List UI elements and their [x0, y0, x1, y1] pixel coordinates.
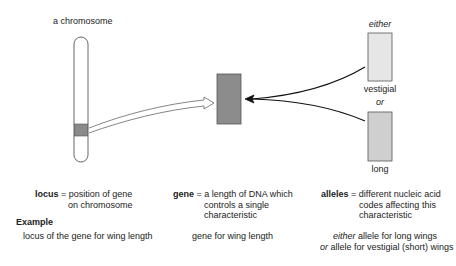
either-word: either	[333, 231, 356, 241]
allele-vestigial-box	[368, 33, 392, 81]
locus-def-line1: position of gene	[69, 189, 133, 199]
chromosome-locus-band	[74, 124, 87, 136]
alleles-def-line2: codes affecting this	[321, 200, 441, 211]
example-alleles-line1: either allele for long wings	[333, 231, 437, 242]
equals-sign: =	[59, 189, 69, 199]
equals-sign: =	[194, 189, 204, 199]
example-heading: Example	[16, 217, 53, 228]
gene-def-line2: controls a single	[173, 200, 293, 211]
locus-term: locus	[35, 189, 59, 199]
allele-vestigial-text: allele for vestigial (short) wings	[328, 242, 454, 252]
example-alleles-line2: or allele for vestigial (short) wings	[320, 242, 454, 253]
allele-long-text: allele for long wings	[356, 231, 438, 241]
hollow-arrow-icon	[89, 97, 214, 133]
gene-block	[217, 74, 241, 124]
alleles-def-line1: different nucleic acid	[359, 189, 441, 199]
chromosome-label: a chromosome	[53, 16, 113, 27]
example-locus: locus of the gene for wing length	[23, 231, 153, 242]
gene-definition: gene = a length of DNA which controls a …	[173, 189, 293, 221]
gene-def-line1: a length of DNA which	[204, 189, 293, 199]
alleles-definition: alleles = different nucleic acid codes a…	[321, 189, 441, 221]
or-label: or	[362, 97, 398, 108]
example-gene: gene for wing length	[192, 231, 273, 242]
alleles-term: alleles	[321, 189, 349, 199]
long-label: long	[362, 164, 398, 175]
gene-def-line3: characteristic	[173, 210, 293, 221]
alleles-def-line3: characteristic	[321, 210, 441, 221]
equals-sign: =	[349, 189, 359, 199]
chromosome	[74, 37, 88, 162]
or-word: or	[320, 242, 328, 252]
vestigial-label: vestigial	[358, 84, 402, 95]
diagram-canvas	[0, 0, 456, 266]
allele-long-box	[368, 112, 392, 161]
allele-arrow-icon	[245, 67, 365, 121]
locus-def-line2: on chromosome	[35, 200, 133, 211]
either-label: either	[362, 19, 398, 30]
locus-definition: locus = position of gene on chromosome	[35, 189, 133, 210]
gene-term: gene	[173, 189, 194, 199]
